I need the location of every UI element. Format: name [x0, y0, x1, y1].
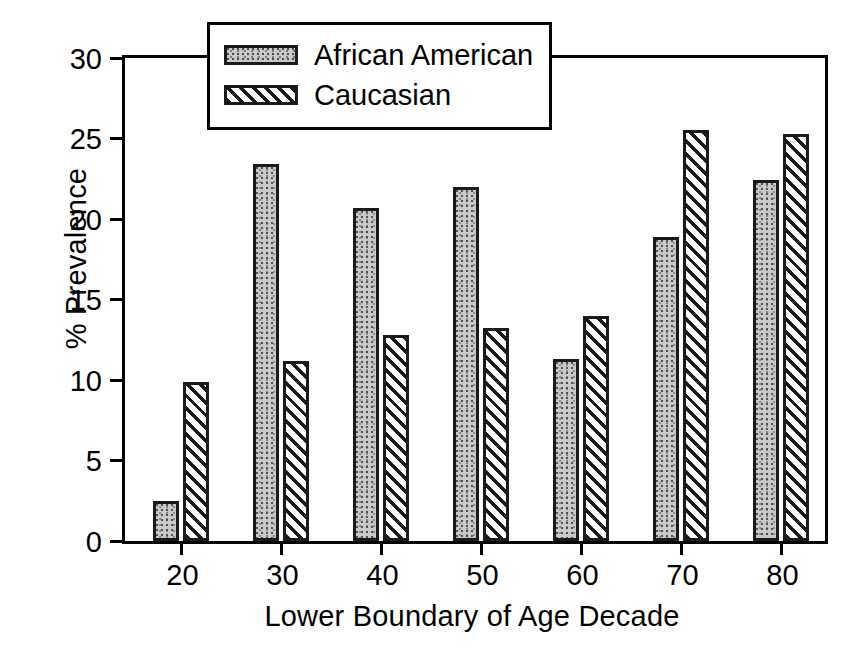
- bar-caucasian-70: [683, 130, 709, 541]
- bar-african-american-20: [153, 501, 179, 541]
- y-axis-tick-label: 0: [86, 526, 102, 559]
- bar-caucasian-30: [283, 361, 309, 541]
- y-axis-tick: 10: [110, 379, 125, 382]
- x-axis-tick: 60: [580, 541, 583, 555]
- x-axis-tick-label: 50: [443, 559, 523, 592]
- x-axis-title: Lower Boundary of Age Decade: [122, 600, 822, 633]
- y-axis-tick: 30: [110, 57, 125, 60]
- y-axis-tick-label: 15: [70, 284, 102, 317]
- y-axis-tick-label: 10: [70, 365, 102, 398]
- x-axis-tick: 40: [380, 541, 383, 555]
- y-axis-tick-label: 20: [70, 204, 102, 237]
- bar-caucasian-50: [483, 328, 509, 541]
- y-axis-tick: 20: [110, 218, 125, 221]
- bar-african-american-30: [253, 164, 279, 541]
- legend-item-african-american: African American: [210, 35, 549, 75]
- x-axis-tick-label: 70: [643, 559, 723, 592]
- x-axis-tick: 50: [480, 541, 483, 555]
- x-axis-tick: 70: [680, 541, 683, 555]
- bar-caucasian-80: [783, 134, 809, 541]
- y-axis-tick-label: 30: [70, 43, 102, 76]
- bar-african-american-40: [353, 208, 379, 541]
- y-axis-tick: 5: [110, 459, 125, 462]
- bar-caucasian-40: [383, 335, 409, 541]
- bar-african-american-80: [753, 180, 779, 541]
- bar-african-american-60: [553, 359, 579, 541]
- legend-swatch-hatch-icon: [224, 85, 298, 105]
- chart-legend: African American Caucasian: [207, 22, 552, 130]
- y-axis-tick: 0: [110, 540, 125, 543]
- y-axis-tick-label: 25: [70, 123, 102, 156]
- legend-label: Caucasian: [314, 81, 451, 110]
- x-axis-tick-label: 30: [243, 559, 323, 592]
- x-axis-tick-label: 40: [343, 559, 423, 592]
- bar-african-american-70: [653, 237, 679, 541]
- x-axis-tick-label: 60: [543, 559, 623, 592]
- bar-caucasian-60: [583, 316, 609, 541]
- x-axis-tick-label: 20: [143, 559, 223, 592]
- y-axis-tick: 25: [110, 137, 125, 140]
- bar-caucasian-20: [183, 382, 209, 541]
- legend-swatch-stipple-icon: [224, 45, 298, 65]
- x-axis-tick: 30: [280, 541, 283, 555]
- x-axis-tick-label: 80: [743, 559, 823, 592]
- legend-item-caucasian: Caucasian: [210, 75, 549, 115]
- bar-chart-figure: % Prevalence 051015202530 20304050607080…: [0, 0, 852, 656]
- legend-label: African American: [314, 41, 533, 70]
- x-axis-tick: 20: [180, 541, 183, 555]
- x-axis-tick: 80: [780, 541, 783, 555]
- bar-african-american-50: [453, 187, 479, 541]
- y-axis-tick-label: 5: [86, 445, 102, 478]
- y-axis-tick: 15: [110, 298, 125, 301]
